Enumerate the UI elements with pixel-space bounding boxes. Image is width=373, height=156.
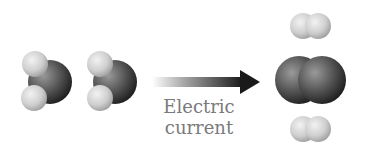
hydrogen-atom bbox=[305, 13, 331, 39]
oxygen-molecule bbox=[275, 56, 346, 104]
hydrogen-atom bbox=[21, 85, 47, 111]
oxygen-atom bbox=[298, 56, 346, 104]
hydrogen-atom bbox=[22, 51, 48, 77]
water-molecule-2 bbox=[87, 51, 137, 111]
reaction-arrow-icon bbox=[152, 70, 260, 94]
hydrogen-atom bbox=[87, 85, 113, 111]
hydrogen-molecule-top bbox=[290, 13, 331, 39]
arrow-label-line1: Electric bbox=[149, 96, 249, 117]
hydrogen-atom bbox=[305, 116, 331, 142]
arrow-label-line2: current bbox=[149, 117, 249, 138]
arrow-label: Electric current bbox=[149, 96, 249, 138]
water-molecule-1 bbox=[21, 51, 72, 111]
hydrogen-atom bbox=[87, 51, 113, 77]
hydrogen-molecule-bottom bbox=[290, 116, 331, 142]
